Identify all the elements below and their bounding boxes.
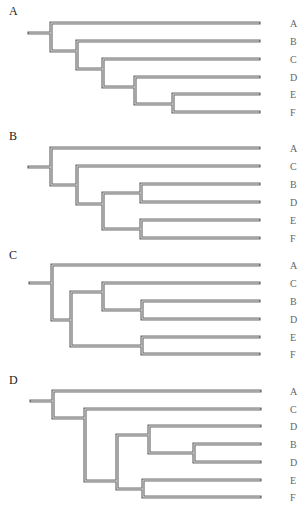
tree-c-edges-inner <box>30 265 259 354</box>
panel-label-c: C <box>9 248 17 263</box>
tree-panel-d <box>31 391 260 497</box>
leaf-label: A <box>290 18 297 29</box>
leaf-label: C <box>290 278 297 289</box>
leaf-label: E <box>290 475 296 486</box>
tree-panel-a <box>29 23 259 112</box>
tree-a-edges <box>29 23 259 112</box>
leaf-label: D <box>290 314 297 325</box>
leaf-label: E <box>290 89 296 100</box>
leaf-label: B <box>290 296 297 307</box>
leaf-label: F <box>290 492 296 503</box>
tree-b-edges <box>29 148 259 238</box>
tree-panel-c <box>30 265 259 354</box>
leaf-label: F <box>290 349 296 360</box>
trees-canvas <box>0 0 307 510</box>
panel-label-d: D <box>9 373 18 388</box>
leaf-label: D <box>290 72 297 83</box>
leaf-label: C <box>290 161 297 172</box>
leaf-label: E <box>290 215 296 226</box>
tree-c-edges <box>30 265 259 354</box>
leaf-label: D <box>290 421 297 432</box>
leaf-label: C <box>290 404 297 415</box>
leaf-label: D <box>290 197 297 208</box>
leaf-label: B <box>290 179 297 190</box>
tree-b-edges-inner <box>29 148 259 238</box>
leaf-label: F <box>290 233 296 244</box>
leaf-label: A <box>290 386 297 397</box>
leaf-label: F <box>290 107 296 118</box>
leaf-label: E <box>290 332 296 343</box>
leaf-label: A <box>290 143 297 154</box>
leaf-label: B <box>290 439 297 450</box>
tree-a-edges-inner <box>29 23 259 112</box>
leaf-label: D <box>290 457 297 468</box>
panel-label-b: B <box>9 129 17 144</box>
leaf-label: A <box>290 260 297 271</box>
panel-label-a: A <box>9 4 18 19</box>
leaf-label: B <box>290 36 297 47</box>
leaf-label: C <box>290 54 297 65</box>
tree-panel-b <box>29 148 259 238</box>
